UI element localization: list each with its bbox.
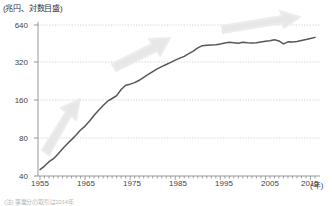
- growth-arrow-3: [222, 11, 300, 33]
- x-tick-label: 1955: [31, 179, 49, 188]
- y-tick-label: 40: [2, 172, 28, 181]
- y-tick-label: 80: [2, 134, 28, 143]
- x-axis-unit-label: (年): [310, 179, 323, 190]
- y-tick-label: 320: [2, 58, 28, 67]
- y-tick-label: 640: [2, 21, 28, 30]
- x-tick-label: 1965: [77, 179, 95, 188]
- x-tick-label: 1985: [169, 179, 187, 188]
- chart-container: (兆円、対数目盛): [0, 0, 332, 206]
- x-tick-label: 2005: [261, 179, 279, 188]
- gdp-line-series: [40, 37, 315, 169]
- y-tick-marks: [34, 25, 38, 176]
- growth-arrow-1: [42, 99, 80, 155]
- chart-footnote: (注) 事業分の取引は2014年: [4, 197, 74, 206]
- x-tick-label: 1995: [215, 179, 233, 188]
- y-tick-label: 160: [2, 96, 28, 105]
- x-tick-label: 1975: [123, 179, 141, 188]
- chart-plot-area: [0, 0, 332, 206]
- gridlines: [38, 25, 320, 138]
